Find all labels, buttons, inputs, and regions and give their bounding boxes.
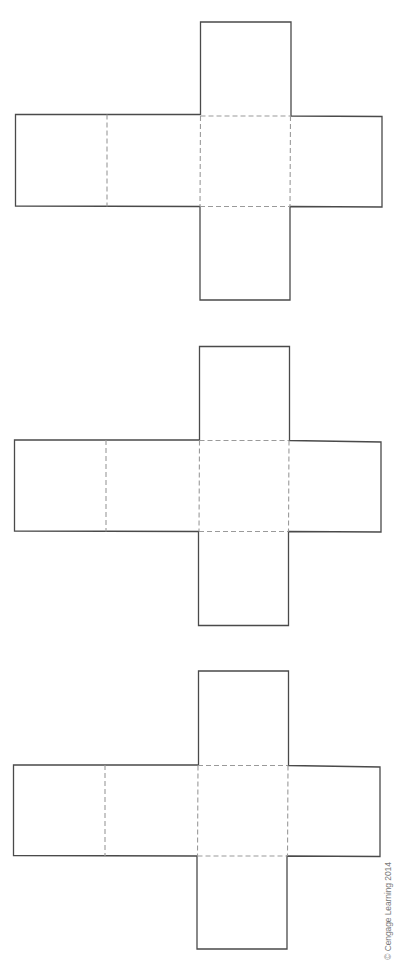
fold-line-center-left — [198, 766, 199, 857]
fold-line-center-left — [200, 116, 201, 207]
cube-net — [14, 671, 381, 949]
cut-outline — [16, 22, 383, 300]
fold-line-center-left — [199, 441, 200, 532]
cube-net — [15, 347, 382, 626]
fold-line-center-right — [290, 116, 291, 207]
fold-line-center-right — [289, 441, 290, 532]
cube-nets-group — [14, 22, 383, 949]
cut-outline — [14, 671, 381, 949]
copyright-credit: © Cengage Learning 2014 — [383, 862, 393, 960]
fold-line-center-right — [288, 766, 289, 857]
cut-outline — [15, 347, 382, 626]
cube-net — [16, 22, 383, 300]
